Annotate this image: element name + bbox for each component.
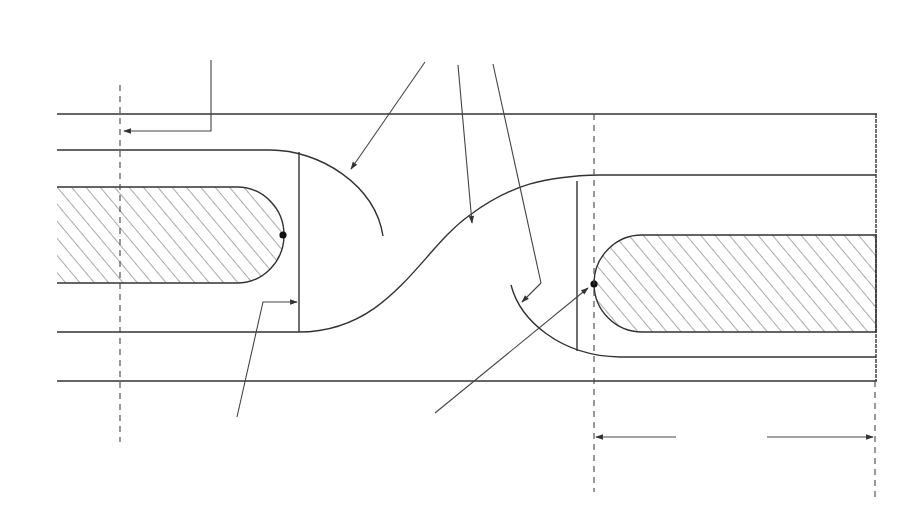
- left-obstacle: [57, 187, 284, 283]
- freeway-pointer-3: [493, 64, 541, 283]
- freeway-pointer-2: [458, 65, 472, 223]
- critical-point-pointer: [435, 288, 588, 413]
- critical-point-left: [279, 231, 286, 238]
- slice-pointer: [124, 60, 211, 131]
- freeway-pointer-3b: [522, 283, 541, 302]
- freeway-pointer-1: [351, 62, 425, 169]
- bridge-pointer: [237, 302, 297, 417]
- right-obstacle: [594, 235, 876, 332]
- channel-diagram: [0, 0, 921, 520]
